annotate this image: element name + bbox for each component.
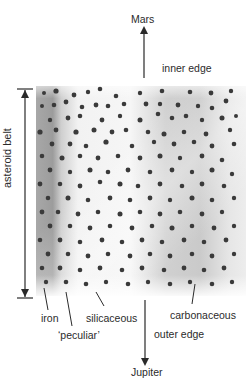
jupiter-label: Jupiter [131,367,163,378]
outer-edge-label: outer edge [154,329,204,340]
zone-label-iron: iron [41,313,59,324]
zone-label-carbonaceous: carbonaceous [170,310,236,321]
arrow-down-to-jupiter-icon [139,300,151,366]
zone-label-peculiar: ‘peculiar’ [58,330,100,341]
zone-label-silicaceous: silicaceous [86,313,137,324]
